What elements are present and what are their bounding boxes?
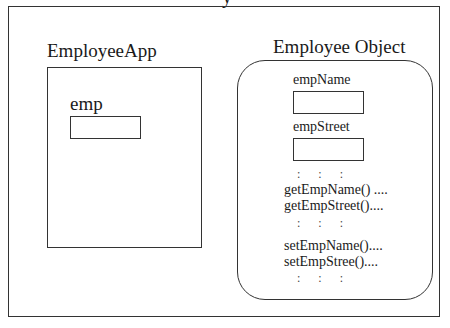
employee-app-title: EmployeeApp <box>47 40 157 62</box>
field-label-empname: empName <box>293 72 351 88</box>
method-set-emp-street: setEmpStree().... <box>284 254 378 270</box>
method-get-emp-name: getEmpName() .... <box>284 182 388 198</box>
employee-object-title: Employee Object <box>273 36 405 58</box>
method-set-emp-name: setEmpName().... <box>284 238 383 254</box>
field-label-empstreet: empStreet <box>293 119 350 135</box>
field-box-empname <box>293 91 364 114</box>
emp-variable-label: emp <box>70 94 103 114</box>
emp-reference-box <box>70 116 141 139</box>
ellipsis-row: : : : <box>297 272 343 284</box>
method-get-emp-street: getEmpStreet().... <box>284 198 384 214</box>
ellipsis-row: : : : <box>297 168 343 180</box>
ellipsis-row: : : : <box>297 217 343 229</box>
field-box-empstreet <box>293 138 364 161</box>
